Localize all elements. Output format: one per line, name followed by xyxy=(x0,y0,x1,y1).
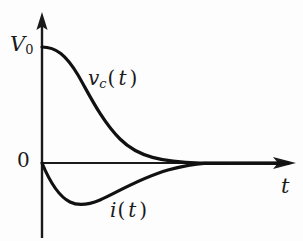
i-curve-label: i(t) xyxy=(110,200,148,220)
t-axis-label: t xyxy=(281,176,289,197)
origin-zero-label: 0 xyxy=(17,150,30,170)
vc-paren-close: ) xyxy=(129,66,137,90)
i-curve xyxy=(42,163,288,204)
vc-curve-label: vc(t) xyxy=(88,68,138,90)
rc-discharge-plot xyxy=(0,0,303,241)
v0-symbol: V xyxy=(10,32,25,56)
figure-container: V0 0 t vc(t) i(t) xyxy=(0,0,303,241)
vc-argument: t xyxy=(118,66,126,90)
vc-curve xyxy=(42,47,288,163)
vc-paren-open: ( xyxy=(108,66,116,90)
vc-subscript: c xyxy=(99,76,106,91)
i-symbol: i xyxy=(110,198,116,222)
vc-symbol: v xyxy=(88,66,99,90)
i-argument: t xyxy=(128,198,136,222)
v0-label: V0 xyxy=(10,34,33,56)
v0-subscript: 0 xyxy=(25,42,33,57)
i-paren-close: ) xyxy=(139,198,147,222)
i-paren-open: ( xyxy=(117,198,125,222)
